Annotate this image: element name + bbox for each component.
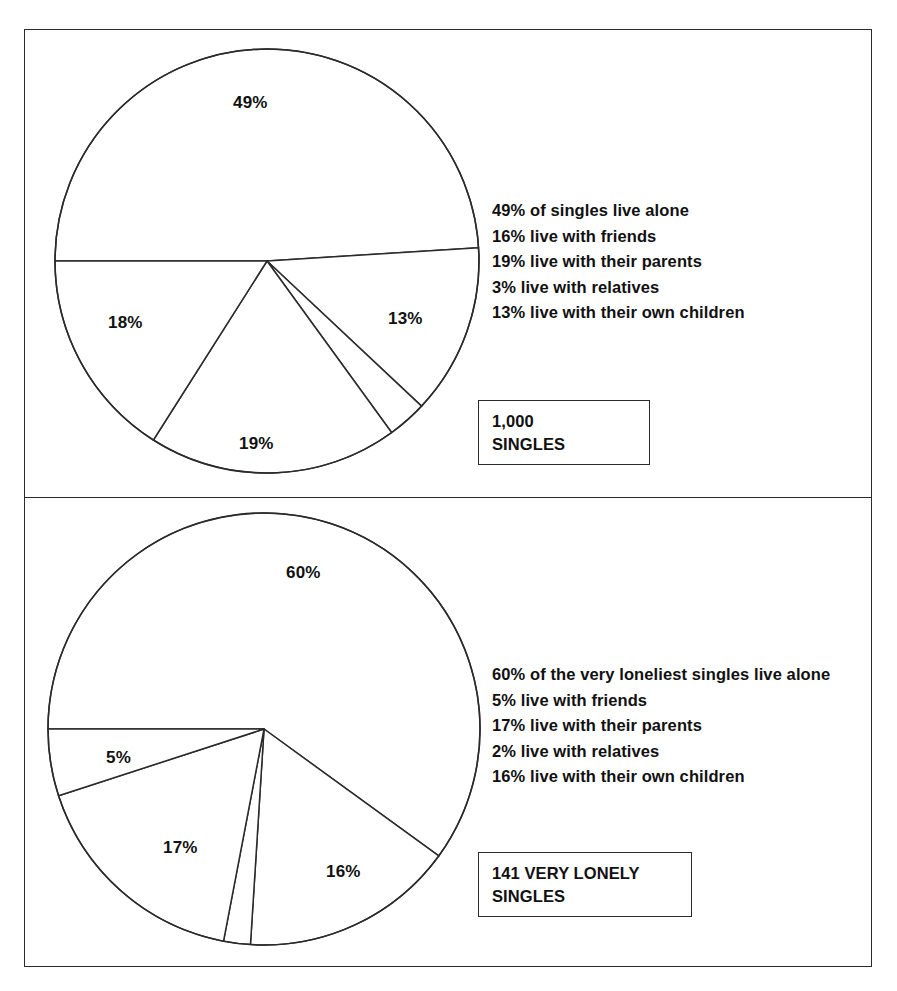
caption-total-count: 1,000 bbox=[492, 410, 649, 433]
legend-entry: 19% live with their parents bbox=[492, 249, 745, 275]
pie-slice-percent-label: 13% bbox=[388, 309, 423, 329]
pie-slice-percent-label: 17% bbox=[163, 838, 198, 858]
legend-entry: 3% live with relatives bbox=[492, 275, 745, 301]
legend-singles-all: 49% of singles live alone16% live with f… bbox=[492, 198, 745, 326]
legend-entry: 16% live with their own children bbox=[492, 764, 830, 790]
legend-entry: 13% live with their own children bbox=[492, 300, 745, 326]
legend-entry: 60% of the very loneliest singles live a… bbox=[492, 662, 830, 688]
pie-slice-percent-label: 18% bbox=[108, 313, 143, 333]
caption-total-unit: SINGLES bbox=[492, 885, 691, 908]
pie-slice-percent-label: 16% bbox=[326, 862, 361, 882]
caption-total-unit: SINGLES bbox=[492, 433, 649, 456]
pie-slice bbox=[55, 49, 479, 261]
pie-slice-percent-label: 60% bbox=[286, 563, 321, 583]
caption-total-count: 141 VERY LONELY bbox=[492, 862, 691, 885]
pie-slice-percent-label: 19% bbox=[239, 434, 274, 454]
caption-box-singles-all: 1,000 SINGLES bbox=[478, 400, 650, 465]
legend-entry: 49% of singles live alone bbox=[492, 198, 745, 224]
pie-slice-percent-label: 5% bbox=[106, 748, 131, 768]
legend-singles-very-lonely: 60% of the very loneliest singles live a… bbox=[492, 662, 830, 790]
legend-entry: 16% live with friends bbox=[492, 224, 745, 250]
pie-slice-percent-label: 49% bbox=[233, 93, 268, 113]
legend-entry: 17% live with their parents bbox=[492, 713, 830, 739]
legend-entry: 5% live with friends bbox=[492, 688, 830, 714]
legend-entry: 2% live with relatives bbox=[492, 739, 830, 765]
panel-divider bbox=[24, 497, 872, 498]
figure-root: 49% of singles live alone16% live with f… bbox=[0, 0, 897, 991]
caption-box-singles-very-lonely: 141 VERY LONELY SINGLES bbox=[478, 852, 692, 917]
pie-chart-singles-very-lonely bbox=[40, 503, 500, 963]
pie-chart-singles-all bbox=[40, 35, 500, 495]
